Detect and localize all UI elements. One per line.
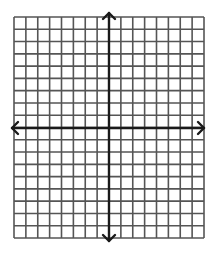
coordinate-plane	[0, 0, 214, 254]
axes	[12, 13, 204, 241]
